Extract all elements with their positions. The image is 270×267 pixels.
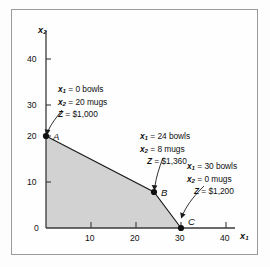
vertex-point-a xyxy=(43,133,49,139)
annotation-c-z-value: = $1,200 xyxy=(199,186,234,196)
x-tick-label-30: 30 xyxy=(175,233,185,243)
y-tick-label-0: 0 xyxy=(34,223,39,233)
x-tick-label-40: 40 xyxy=(220,233,230,243)
vertex-point-c xyxy=(178,225,184,231)
x-axis-label: x1 xyxy=(240,231,249,241)
annotation-c-line-x2: x2 = 0 mugs xyxy=(187,174,237,187)
annotation-vertex-c: x1 = 30 bowls x2 = 0 mugs Z = $1,200 xyxy=(187,161,237,197)
y-axis-label-sub: 2 xyxy=(43,28,46,35)
y-tick-label-30: 30 xyxy=(27,100,37,110)
x-axis-label-sub: 1 xyxy=(245,234,248,241)
annotation-a-z-value: = $1,000 xyxy=(63,109,98,119)
annotation-b-line-x1: x1 = 24 bowls xyxy=(140,131,190,144)
y-tick-label-40: 40 xyxy=(27,54,37,64)
linear-programming-graph: 40 30 20 10 0 10 20 30 40 x2 x1 A B C x1… xyxy=(0,0,270,267)
annotation-c-line-z: Z = $1,200 xyxy=(187,186,237,197)
annotation-c-line-x1: x1 = 30 bowls xyxy=(187,161,237,174)
y-axis-label: x2 xyxy=(38,25,47,35)
annotation-b-z-value: = $1,360 xyxy=(152,156,187,166)
annotation-a-line-z: Z = $1,000 xyxy=(58,109,107,120)
x-tick-label-10: 10 xyxy=(85,233,95,243)
y-tick-label-20: 20 xyxy=(27,131,37,141)
x-tick-label-20: 20 xyxy=(130,233,140,243)
annotation-a-line-x2: x2 = 20 mugs xyxy=(58,97,107,110)
plot-area xyxy=(0,0,270,267)
annotation-a-line-x1: x1 = 0 bowls xyxy=(58,84,107,97)
annotation-c-x1-value: = 30 bowls xyxy=(195,161,237,171)
annotation-a-x2-value: = 20 mugs xyxy=(66,97,107,107)
annotation-vertex-b: x1 = 24 bowls x2 = 8 mugs Z = $1,360 xyxy=(140,131,190,167)
annotation-b-x1-value: = 24 bowls xyxy=(148,131,190,141)
annotation-b-x2-value: = 8 mugs xyxy=(148,144,185,154)
annotation-c-x2-value: = 0 mugs xyxy=(195,174,232,184)
annotation-vertex-a: x1 = 0 bowls x2 = 20 mugs Z = $1,000 xyxy=(58,84,107,120)
y-tick-label-10: 10 xyxy=(27,177,37,187)
annotation-b-line-x2: x2 = 8 mugs xyxy=(140,144,190,157)
vertex-label-b: B xyxy=(161,187,167,198)
vertex-label-c: C xyxy=(188,216,195,227)
annotation-a-x1-value: = 0 bowls xyxy=(66,84,103,94)
vertex-point-b xyxy=(151,189,157,195)
vertex-label-a: A xyxy=(53,131,59,142)
annotation-b-line-z: Z = $1,360 xyxy=(140,156,190,167)
